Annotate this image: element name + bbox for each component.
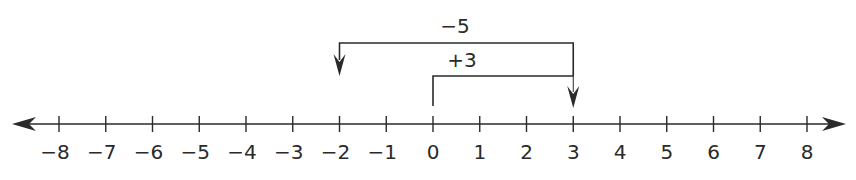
tick-label: −1	[368, 140, 397, 164]
tick-label: 0	[427, 140, 440, 164]
tick-label: 1	[473, 140, 486, 164]
tick-label: 3	[567, 140, 580, 164]
tick-label: 5	[660, 140, 673, 164]
number-line-diagram: −8−7−6−5−4−3−2−1012345678 +3 −5	[0, 0, 856, 180]
tick-label: 6	[707, 140, 720, 164]
tick-label: −7	[87, 140, 116, 164]
tick-label: −6	[134, 140, 163, 164]
jump-minus-5-label: −5	[440, 14, 469, 38]
tick-label: 7	[754, 140, 767, 164]
tick-label: 2	[520, 140, 533, 164]
tick-label: −5	[181, 140, 210, 164]
jump-plus-3-label: +3	[447, 48, 476, 72]
tick-label: 4	[614, 140, 627, 164]
jump-plus-3-path	[433, 76, 573, 106]
tick-label: −8	[40, 140, 69, 164]
tick-label: 8	[801, 140, 814, 164]
tick-label: −2	[321, 140, 350, 164]
tick-label: −4	[227, 140, 256, 164]
tick-label: −3	[274, 140, 303, 164]
